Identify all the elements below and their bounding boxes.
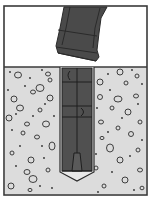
anchor-diagram [0,0,152,200]
expansion-plug [72,153,82,171]
diagram-canvas [0,0,152,200]
